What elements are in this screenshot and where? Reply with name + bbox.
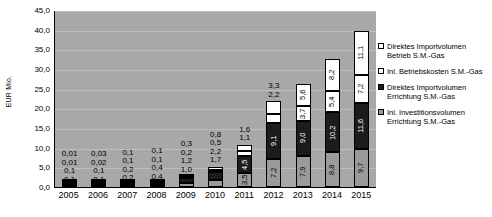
bar-group[interactable]: 0,030,020,10,1 (84, 11, 113, 187)
bar-stack[interactable] (62, 179, 77, 187)
bar-group[interactable]: 8,810,25,48,2 (318, 11, 347, 187)
legend-item[interactable]: Direktes Importvolumen Errichtung S.M.-G… (378, 83, 492, 101)
legend-label: Inl. Investitionsvolumen Errichtung S.M.… (387, 108, 492, 126)
bar-segment[interactable] (62, 179, 77, 181)
bar-value-label: 5,6 (299, 90, 307, 100)
bar-stack[interactable]: 7,99,03,75,6 (296, 84, 311, 187)
bar-value-label: 3,7 (299, 108, 307, 118)
bar-group[interactable]: 0,010,010,10,1 (55, 11, 84, 187)
bar-segment[interactable]: 11,1 (354, 31, 369, 75)
y-tick-label: 35,0 (20, 46, 50, 54)
x-tick-label: 2011 (230, 190, 259, 210)
bar-stack[interactable] (179, 174, 194, 187)
bar-stack[interactable] (208, 167, 223, 187)
bar-segment[interactable] (150, 181, 165, 183)
bar-segment[interactable] (120, 185, 135, 187)
bar-stack[interactable] (150, 179, 165, 187)
bar-segment[interactable]: 9,0 (296, 121, 311, 156)
y-tick-label: 45,0 (20, 7, 50, 15)
bar-segment[interactable]: 8,2 (325, 59, 340, 91)
bar-outside-labels: 0,30,21,21,0 (181, 140, 192, 174)
bar-value-label: 8,2 (329, 70, 337, 80)
bar-segment[interactable] (120, 179, 135, 181)
bar-segment[interactable]: 3,5 (237, 173, 252, 187)
bar-group[interactable]: 0,10,10,40,4 (143, 11, 172, 187)
bar-group[interactable]: 3,32,27,29,1 (259, 11, 288, 187)
stacked-bar-chart: EUR Mio. 45,040,035,030,025,020,015,010,… (0, 0, 492, 217)
bar-segment[interactable] (91, 181, 106, 183)
bar-segment[interactable] (150, 185, 165, 187)
bar-stack[interactable]: 8,810,25,48,2 (325, 59, 340, 187)
bar-segment[interactable]: 3,7 (296, 106, 311, 121)
bar-segment[interactable]: 7,2 (266, 159, 281, 187)
legend-item[interactable]: Direktes Importvolumen Betrieb S.M.-Gas (378, 42, 492, 60)
bar-segment[interactable] (208, 167, 223, 170)
bar-segment[interactable]: 9,1 (266, 123, 281, 159)
legend-label: Inl. Betriebskosten S.M.-Gas (387, 67, 482, 76)
bar-segment[interactable] (91, 183, 106, 185)
x-tick-label: 2009 (171, 190, 200, 210)
legend-label: Direktes Importvolumen Betrieb S.M.-Gas (387, 42, 492, 60)
bar-outside-labels: 1,61,1 (239, 126, 250, 143)
bar-segment[interactable] (266, 114, 281, 123)
bar-group[interactable]: 0,80,52,21,7 (201, 11, 230, 187)
bar-value-label: 10,2 (329, 125, 337, 140)
bar-segment[interactable] (179, 178, 194, 183)
bar-segment[interactable] (237, 145, 252, 151)
x-tick-label: 2005 (54, 190, 83, 210)
legend-swatch-icon (378, 84, 384, 90)
bar-segment[interactable]: 5,4 (325, 91, 340, 112)
chart-legend: Direktes Importvolumen Betrieb S.M.-GasI… (378, 42, 492, 133)
bar-segment[interactable] (208, 180, 223, 187)
bar-value-label: 7,2 (358, 84, 366, 94)
bar-segment[interactable] (266, 101, 281, 114)
legend-swatch-icon (378, 109, 384, 115)
bar-stack[interactable]: 9,711,67,211,1 (354, 31, 369, 187)
y-tick-label: 0,0 (20, 184, 50, 192)
bar-segment[interactable] (179, 176, 194, 178)
bar-segment[interactable] (150, 183, 165, 185)
bar-segment[interactable]: 11,6 (354, 103, 369, 149)
bar-segment[interactable] (120, 183, 135, 185)
bar-stack[interactable]: 3,54,5 (237, 145, 252, 187)
bar-segment[interactable] (150, 179, 165, 181)
bar-segment[interactable] (120, 181, 135, 183)
bar-outside-labels: 0,80,52,21,7 (210, 131, 221, 165)
bar-segment[interactable] (208, 170, 223, 172)
bar-segment[interactable]: 10,2 (325, 112, 340, 152)
bar-group[interactable]: 1,61,13,54,5 (230, 11, 259, 187)
bar-segment[interactable] (91, 179, 106, 181)
bar-segment[interactable] (91, 185, 106, 187)
bar-segment[interactable]: 7,9 (296, 156, 311, 187)
bar-group[interactable]: 0,10,10,20,2 (113, 11, 142, 187)
bar-group[interactable]: 0,30,21,21,0 (172, 11, 201, 187)
bar-segment[interactable] (62, 183, 77, 185)
bar-segment[interactable]: 5,6 (296, 84, 311, 106)
bar-segment[interactable] (62, 185, 77, 187)
bar-stack[interactable]: 7,29,1 (266, 101, 281, 187)
bar-segment[interactable] (208, 172, 223, 181)
bar-stack[interactable] (91, 179, 106, 187)
bar-segment[interactable]: 4,5 (237, 156, 252, 174)
y-tick-label: 40,0 (20, 27, 50, 35)
legend-item[interactable]: Inl. Betriebskosten S.M.-Gas (378, 67, 492, 76)
bar-segment[interactable]: 7,2 (354, 75, 369, 103)
bar-value-label: 7,9 (299, 166, 307, 176)
bar-group[interactable]: 9,711,67,211,1 (347, 11, 376, 187)
bar-segment[interactable] (179, 183, 194, 187)
bar-value-label: 11,6 (358, 119, 366, 133)
legend-item[interactable]: Inl. Investitionsvolumen Errichtung S.M.… (378, 108, 492, 126)
bar-value-label: 1,1 (239, 134, 250, 143)
bar-segment[interactable]: 9,7 (354, 149, 369, 187)
bar-segment[interactable] (179, 174, 194, 176)
bar-segment[interactable]: 8,8 (325, 152, 340, 187)
plot-area: 0,010,010,10,10,030,020,10,10,10,10,20,2… (54, 11, 376, 188)
bar-segment[interactable] (237, 151, 252, 155)
bar-group[interactable]: 7,99,03,75,6 (289, 11, 318, 187)
x-tick-label: 2014 (317, 190, 346, 210)
y-tick-label: 15,0 (20, 125, 50, 133)
bar-outside-labels: 0,10,10,20,2 (122, 149, 133, 183)
y-axis-tick-labels: 45,040,035,030,025,020,015,010,05,00,0 (18, 0, 50, 217)
bar-stack[interactable] (120, 179, 135, 187)
bar-segment[interactable] (62, 181, 77, 183)
